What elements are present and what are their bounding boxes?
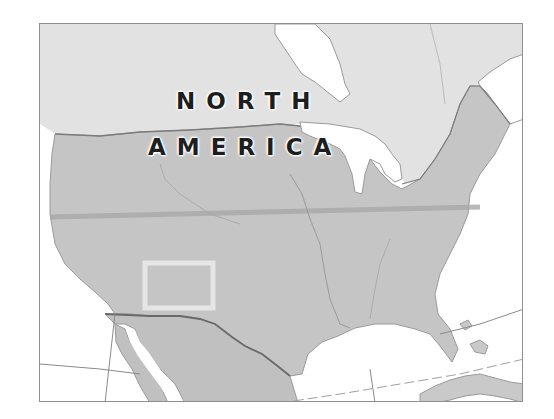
map-label-north: NORTH [176, 88, 321, 114]
map-frame: NORTH AMERICA [39, 23, 523, 402]
map-label-america: AMERICA [148, 134, 342, 160]
map-svg [40, 24, 523, 402]
